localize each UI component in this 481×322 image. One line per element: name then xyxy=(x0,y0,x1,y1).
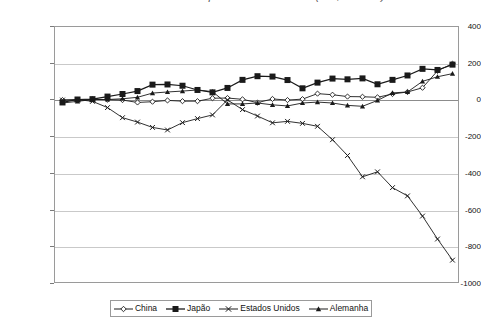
data-point-diamond xyxy=(285,97,290,102)
chart-legend: ChinaJapãoEstados UnidosAlemanha xyxy=(110,300,372,317)
figure-caption: Gráfico 3 – Saldo em conta corrente de p… xyxy=(6,0,385,2)
series-plot xyxy=(55,27,460,284)
legend-label: China xyxy=(135,304,157,313)
chart-page: Gráfico 3 – Saldo em conta corrente de p… xyxy=(0,0,481,322)
legend-marker-triangle-filled-icon xyxy=(309,304,328,314)
legend-item-estados-unidos[interactable]: Estados Unidos xyxy=(219,304,300,314)
data-point-diamond xyxy=(360,94,365,99)
data-point-square-filled xyxy=(435,67,441,73)
data-point-diamond xyxy=(210,96,215,101)
data-point-square-filled xyxy=(255,73,261,79)
legend-item-alemanha[interactable]: Alemanha xyxy=(309,304,368,314)
data-point-square-filled xyxy=(450,62,456,68)
data-point-cross xyxy=(390,185,395,190)
data-point-square-filled xyxy=(150,82,156,88)
legend-label: Japão xyxy=(187,304,210,313)
data-point-cross xyxy=(240,107,245,112)
data-point-diamond xyxy=(195,99,200,104)
legend-item-china[interactable]: China xyxy=(114,304,157,314)
data-point-cross xyxy=(450,258,455,263)
data-point-triangle-filled xyxy=(450,71,455,76)
data-point-square-filled xyxy=(240,77,246,83)
y-axis-tick-mark xyxy=(50,283,54,284)
data-point-diamond xyxy=(330,92,335,97)
data-point-square-filled xyxy=(345,76,351,82)
data-point-diamond xyxy=(270,96,275,101)
data-point-cross xyxy=(120,115,125,120)
data-point-cross xyxy=(135,120,140,125)
data-point-cross xyxy=(105,105,110,110)
data-point-square-filled xyxy=(285,77,291,83)
data-point-diamond xyxy=(165,98,170,103)
data-point-diamond xyxy=(315,91,320,96)
data-point-cross xyxy=(405,193,410,198)
data-point-square-filled xyxy=(225,85,231,91)
data-point-diamond xyxy=(180,99,185,104)
legend-item-japão[interactable]: Japão xyxy=(166,304,210,314)
data-point-diamond xyxy=(150,99,155,104)
data-point-square-filled xyxy=(180,83,186,89)
data-point-cross xyxy=(345,153,350,158)
data-point-cross xyxy=(420,214,425,219)
figure-caption-strip: Gráfico 3 – Saldo em conta corrente de p… xyxy=(0,0,481,11)
plot-area xyxy=(54,26,459,283)
data-point-square-filled xyxy=(173,306,179,312)
data-point-cross xyxy=(375,169,380,174)
data-point-square-filled xyxy=(330,76,336,82)
data-point-diamond xyxy=(121,306,126,311)
data-point-cross xyxy=(330,137,335,142)
data-point-diamond xyxy=(135,100,140,105)
legend-marker-cross-icon xyxy=(219,304,238,314)
legend-marker-diamond-icon xyxy=(114,304,133,314)
series-line xyxy=(63,100,453,261)
data-point-diamond xyxy=(345,94,350,99)
data-point-square-filled xyxy=(390,77,396,83)
data-point-cross xyxy=(255,114,260,119)
data-point-square-filled xyxy=(135,88,141,94)
data-point-cross xyxy=(435,237,440,242)
series-estados-unidos xyxy=(60,97,455,262)
legend-marker-square-filled-icon xyxy=(166,304,185,314)
data-point-square-filled xyxy=(120,91,126,97)
data-point-square-filled xyxy=(420,66,426,72)
data-point-square-filled xyxy=(165,81,171,87)
data-point-square-filled xyxy=(300,85,306,91)
data-point-square-filled xyxy=(315,80,321,86)
data-point-cross xyxy=(360,174,365,179)
legend-label: Estados Unidos xyxy=(240,304,300,313)
data-point-square-filled xyxy=(405,72,411,78)
data-point-square-filled xyxy=(360,75,366,81)
data-point-square-filled xyxy=(375,81,381,87)
legend-label: Alemanha xyxy=(330,304,368,313)
data-point-square-filled xyxy=(270,74,276,80)
data-point-diamond xyxy=(240,97,245,102)
